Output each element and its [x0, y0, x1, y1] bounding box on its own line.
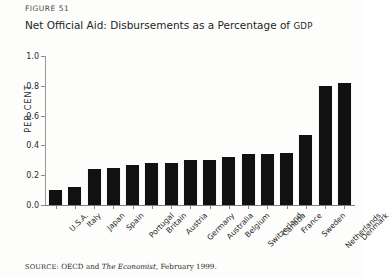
y-tick-mark — [41, 116, 45, 117]
x-tick-label: Sweden — [320, 211, 348, 239]
x-tick-label: Japan — [105, 211, 126, 232]
y-tick-mark — [41, 205, 45, 206]
source-note: SOURCE: OECD and The Economist, February… — [25, 262, 217, 271]
y-tick-mark — [41, 145, 45, 146]
source-lead: SOURCE: — [25, 263, 59, 271]
source-publication: The Economist — [102, 262, 156, 271]
source-body-b: , February 1999. — [156, 262, 217, 271]
source-body-a: OECD and — [59, 262, 102, 271]
y-tick-mark — [41, 86, 45, 87]
x-tick-label: Spain — [125, 211, 146, 232]
y-tick-mark — [41, 56, 45, 57]
x-tick-label: Italy — [85, 211, 103, 229]
y-tick-mark — [41, 175, 45, 176]
x-tick-label: Austria — [184, 211, 209, 236]
